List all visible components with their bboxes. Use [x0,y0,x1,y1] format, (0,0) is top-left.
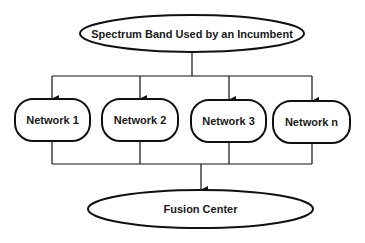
network-node-n: Network n [273,101,350,143]
network-n-label: Network n [285,116,338,128]
sink-node: Fusion Center [88,190,313,228]
collection-connectors [52,141,312,190]
network-2-label: Network 2 [114,114,167,126]
network-node-3: Network 3 [191,100,266,142]
network-1-label: Network 1 [26,114,79,126]
diagram-canvas: Spectrum Band Used by an Incumbent Netwo… [0,0,365,243]
flowchart: Spectrum Band Used by an Incumbent Netwo… [0,0,365,243]
fusion-center-label: Fusion Center [164,203,239,215]
source-label: Spectrum Band Used by an Incumbent [91,28,293,40]
network-node-1: Network 1 [15,99,90,141]
distribution-connectors [52,52,312,101]
network-3-label: Network 3 [202,115,255,127]
source-node: Spectrum Band Used by an Incumbent [80,15,304,52]
network-node-2: Network 2 [102,99,178,141]
